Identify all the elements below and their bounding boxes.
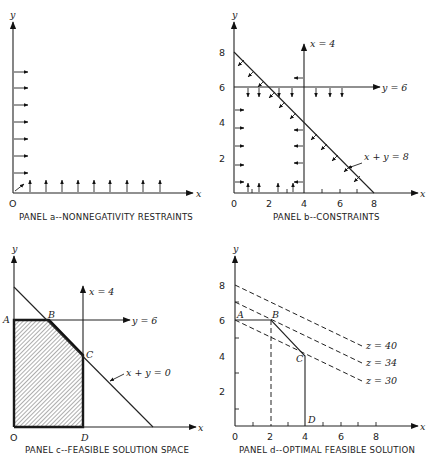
panel-b: y x 0 2 4 6 8 8 6 4 2 x = 4 y = 6 x + y … xyxy=(219,9,426,209)
x-axis-label: x xyxy=(198,422,204,433)
y-axis-label: y xyxy=(11,243,18,254)
x4-constraint-arrows xyxy=(294,78,303,182)
y-tick-4: 4 xyxy=(219,351,225,362)
vertex-A: A xyxy=(2,314,10,325)
y-nonnegativity-arrows xyxy=(14,72,28,173)
vertex-A: A xyxy=(236,309,244,320)
vertex-D: D xyxy=(307,414,316,425)
label-pointer xyxy=(110,374,124,381)
x-axis-label: x xyxy=(196,188,202,199)
panel-d: y x 0 2 4 6 8 8 6 4 2 z = 40 xyxy=(219,243,426,442)
y-axis-label: y xyxy=(9,9,16,20)
vertex-D: D xyxy=(80,432,89,443)
x-nonnegativity-arrows xyxy=(15,180,160,192)
x-tick-6: 6 xyxy=(337,198,343,209)
vertex-B: B xyxy=(271,309,279,320)
y-tick-2: 2 xyxy=(219,153,225,164)
feasible-region xyxy=(14,320,83,427)
y-axis-nonneg-arrows xyxy=(235,110,244,182)
vertex-O: O xyxy=(10,432,17,443)
y-tick-4: 4 xyxy=(219,117,225,128)
x-axis-nonneg-arrows xyxy=(248,183,293,192)
y-tick-6: 6 xyxy=(219,82,225,93)
y-axis-label: y xyxy=(232,243,239,254)
label-x4: x = 4 xyxy=(310,38,335,49)
label-z34: z = 34 xyxy=(365,357,397,368)
y6-constraint-arrows xyxy=(248,88,342,97)
y-tick-2: 2 xyxy=(219,386,225,397)
x-tick-4: 4 xyxy=(302,431,308,442)
figure-canvas: y x O y x xyxy=(0,0,432,465)
vertex-C: C xyxy=(86,349,94,360)
x-tick-0: 0 xyxy=(231,198,237,209)
x-tick-6: 6 xyxy=(338,431,344,442)
isoline-z40 xyxy=(235,285,362,346)
feasible-boundary xyxy=(235,320,305,426)
label-sum8: x + y = 8 xyxy=(364,151,409,162)
x-tick-4: 4 xyxy=(301,198,307,209)
y-tick-8: 8 xyxy=(219,47,225,58)
caption-panel-b: PANEL b--CONSTRAINTS xyxy=(273,212,380,222)
y-axis-label: y xyxy=(231,9,238,20)
caption-panel-d: PANEL d--OPTIMAL FEASIBLE SOLUTION xyxy=(239,445,415,455)
caption-panel-a: PANEL a--NONNEGATIVITY RESTRAINTS xyxy=(19,212,193,222)
label-y6: y = 6 xyxy=(131,315,157,326)
isoline-z30 xyxy=(235,320,362,381)
label-y6: y = 6 xyxy=(381,82,407,93)
origin-diagonal-arrow xyxy=(15,184,24,191)
x-tick-0: 0 xyxy=(232,431,238,442)
label-sum: x + y = 0 xyxy=(126,367,171,378)
panel-a: y x O xyxy=(9,9,202,209)
label-z40: z = 40 xyxy=(365,340,397,351)
label-z30: z = 30 xyxy=(365,375,397,386)
x-tick-2: 2 xyxy=(267,431,273,442)
x-axis-label: x xyxy=(420,421,426,432)
panel-c: y x x = 4 y = 6 x + y = 0 O A B C D xyxy=(2,243,204,443)
vertex-B: B xyxy=(47,309,55,320)
x-tick-8: 8 xyxy=(371,198,377,209)
caption-panel-c: PANEL c--FEASIBLE SOLUTION SPACE xyxy=(25,445,189,455)
x-tick-8: 8 xyxy=(373,431,379,442)
label-pointer xyxy=(348,163,362,168)
origin-label: O xyxy=(9,198,16,209)
vertex-C: C xyxy=(296,353,304,364)
label-x4: x = 4 xyxy=(89,286,114,297)
x-axis-label: x xyxy=(420,188,426,199)
x-tick-2: 2 xyxy=(266,198,272,209)
y-tick-6: 6 xyxy=(219,315,225,326)
y-tick-8: 8 xyxy=(219,280,225,291)
